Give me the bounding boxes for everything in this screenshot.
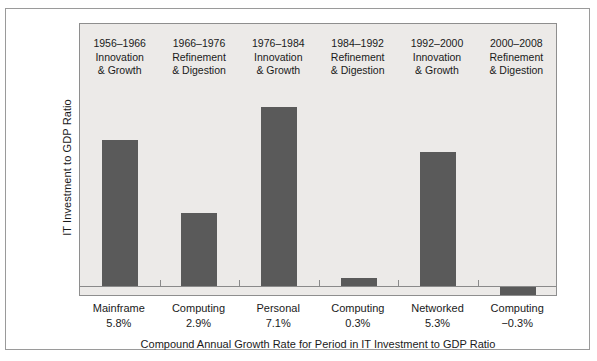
bar-column-4 [398, 24, 478, 295]
category-value-2: 7.1% [238, 316, 318, 331]
category-label-3: Computing 0.3% [318, 301, 398, 335]
category-value-3: 0.3% [318, 316, 398, 331]
category-value-5: −0.3% [477, 316, 557, 331]
category-label-row: Mainframe 5.8% Computing 2.9% Personal 7… [79, 301, 557, 335]
category-value-1: 2.9% [159, 316, 239, 331]
category-name-1: Computing [159, 301, 239, 316]
category-value-4: 5.3% [398, 316, 478, 331]
plot-panel: 1956–1966 Innovation & Growth 1966–1976 … [79, 23, 557, 296]
category-label-5: Computing −0.3% [477, 301, 557, 335]
bar-personal [261, 107, 297, 286]
y-axis-title: IT Investment to GDP Ratio [60, 31, 74, 304]
axis-tick-2 [239, 280, 240, 286]
bar-column-5 [478, 24, 558, 295]
axis-tick-3 [319, 280, 320, 286]
axis-tick-5 [478, 280, 479, 286]
category-label-0: Mainframe 5.8% [79, 301, 159, 335]
category-name-5: Computing [477, 301, 557, 316]
x-axis-baseline [80, 286, 556, 287]
bar-networked [420, 152, 456, 286]
bar-computing-2 [341, 278, 377, 286]
x-axis-title: Compound Annual Growth Rate for Period i… [79, 338, 557, 350]
bar-mainframe [102, 140, 138, 286]
category-name-3: Computing [318, 301, 398, 316]
bar-column-1 [160, 24, 240, 295]
category-label-4: Networked 5.3% [398, 301, 478, 335]
category-label-1: Computing 2.9% [159, 301, 239, 335]
axis-tick-1 [160, 280, 161, 286]
chart-figure-frame: IT Investment to GDP Ratio 1956–1966 Inn… [5, 8, 590, 350]
category-name-2: Personal [238, 301, 318, 316]
axis-tick-4 [398, 280, 399, 286]
bar-computing-3 [500, 287, 536, 295]
category-label-2: Personal 7.1% [238, 301, 318, 335]
bar-column-3 [319, 24, 399, 295]
bar-computing-1 [181, 213, 217, 286]
category-value-0: 5.8% [79, 316, 159, 331]
bars-area [80, 24, 556, 295]
category-name-4: Networked [398, 301, 478, 316]
category-name-0: Mainframe [79, 301, 159, 316]
bar-column-2 [239, 24, 319, 295]
bar-column-0 [80, 24, 160, 295]
